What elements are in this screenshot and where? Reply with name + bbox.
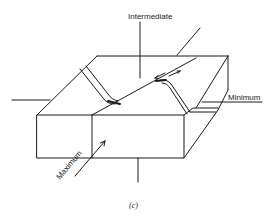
figure-caption: (c) <box>129 201 138 210</box>
block-front-face <box>37 115 184 158</box>
fault-plane <box>80 56 228 115</box>
block-right-face <box>184 90 228 158</box>
back-axis-line <box>177 28 200 55</box>
block-top-face <box>37 56 228 115</box>
intermediate-label: Intermediate <box>128 12 173 21</box>
minimum-label: Minimum <box>228 93 261 102</box>
slip-arrows <box>155 71 180 79</box>
fault-block-diagram: Intermediate Minimum Maximum (c) <box>0 0 275 218</box>
maximum-label: Maximum <box>55 149 84 182</box>
